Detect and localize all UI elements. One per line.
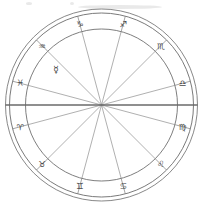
house-spoke [28,85,101,105]
house-spoke [28,105,101,125]
pisces-glyph: ♓ [17,78,25,88]
chart-wheel-svg: ♈♉♊♋♌♍♎♏♐♑♒♓ ☿ [0,0,203,209]
house-spoke [102,51,156,105]
planet-glyph-group: ☿ [53,64,59,75]
house-spoke [102,32,122,105]
house-spoke [82,105,102,178]
house-spoke [102,105,122,178]
leo-glyph: ♌ [157,159,165,169]
aries-glyph: ♈ [17,122,25,132]
virgo-glyph: ♍ [179,122,187,132]
sagittarius-glyph: ♐ [119,19,127,29]
house-spoke [48,51,102,105]
house-spoke [82,32,102,105]
house-spoke [102,85,175,105]
scorpio-glyph: ♏ [157,41,165,51]
aquarius-glyph: ♒ [38,41,46,51]
libra-glyph: ♎ [179,78,187,88]
gemini-glyph: ♊ [76,181,84,191]
house-spoke [102,105,156,159]
mercury-glyph: ☿ [53,64,59,75]
astrology-chart-wheel: ♈♉♊♋♌♍♎♏♐♑♒♓ ☿ [0,0,203,209]
house-spoke [48,105,102,159]
taurus-glyph: ♉ [38,159,46,169]
cancer-glyph: ♋ [119,181,127,191]
capricorn-glyph: ♑ [76,19,84,29]
house-spoke [102,105,175,125]
